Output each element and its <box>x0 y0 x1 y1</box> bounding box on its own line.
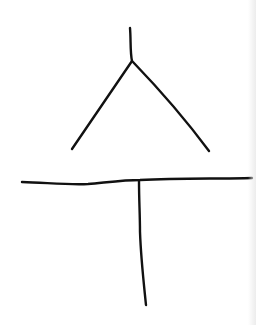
left-leg-stroke <box>72 61 132 149</box>
sketch-canvas <box>0 0 256 325</box>
page-edge-shadow <box>248 0 256 325</box>
hand-drawn-sketch <box>0 0 256 325</box>
top-stem-stroke <box>130 28 132 61</box>
crossbar-stroke <box>22 178 252 184</box>
vertical-post-stroke <box>139 181 146 305</box>
right-leg-stroke <box>133 62 209 151</box>
